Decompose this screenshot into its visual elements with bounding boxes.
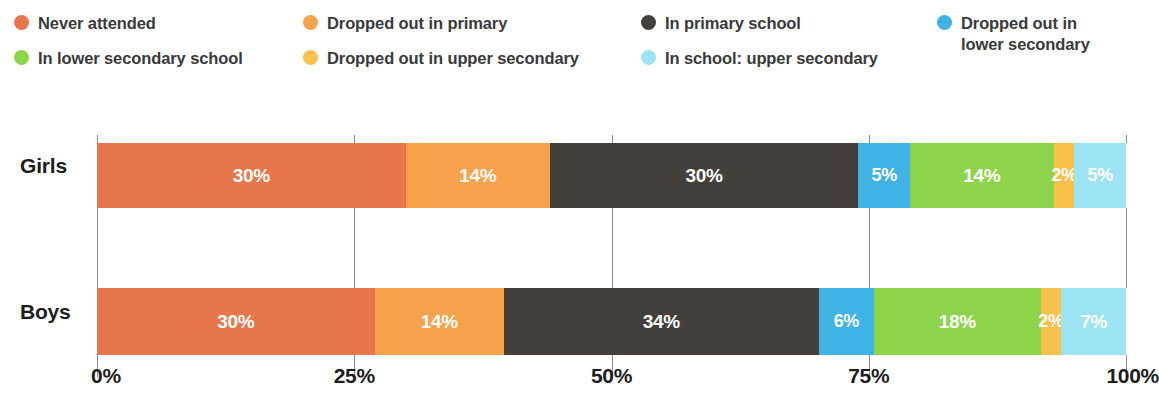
legend-item-label: In school: upper secondary	[665, 48, 878, 69]
gridline	[1126, 208, 1127, 288]
bar-segment: 2%	[1041, 288, 1062, 355]
legend-item: In primary school	[641, 13, 801, 34]
bar-segment-value-label: 6%	[834, 311, 859, 332]
x-axis-tick-label: 100%	[1106, 364, 1159, 388]
bar-segment-value-label: 14%	[963, 165, 1000, 187]
bar-segment-value-label: 14%	[459, 165, 496, 187]
legend-swatch-icon	[303, 50, 318, 65]
bar-segment-value-label: 18%	[939, 311, 976, 333]
gridline	[97, 135, 98, 143]
legend-item: Dropped out in upper secondary	[303, 48, 579, 69]
gridline	[612, 135, 613, 143]
bar-segment-value-label: 2%	[1038, 311, 1063, 332]
gridline	[97, 208, 98, 288]
bar-segment-value-label: 30%	[686, 165, 723, 187]
bar-segment-value-label: 5%	[871, 165, 896, 186]
bar-segment: 5%	[1074, 143, 1125, 208]
bar-segment: 30%	[97, 288, 375, 355]
bar-segment: 34%	[504, 288, 819, 355]
gridline	[612, 208, 613, 288]
legend-swatch-icon	[14, 50, 29, 65]
bar-segment-value-label: 30%	[217, 311, 254, 333]
gridline	[354, 208, 355, 288]
legend-swatch-icon	[937, 15, 952, 30]
category-label-girls: Girls	[20, 154, 67, 178]
gridline	[1126, 135, 1127, 143]
legend-swatch-icon	[14, 15, 29, 30]
bar-segment: 14%	[375, 288, 505, 355]
gridline	[869, 208, 870, 288]
gridline	[354, 135, 355, 143]
category-label-boys: Boys	[20, 300, 71, 324]
bar-segment: 30%	[97, 143, 406, 208]
legend-item-label: In lower secondary school	[38, 48, 243, 69]
bar-segment: 14%	[910, 143, 1054, 208]
legend-item: In lower secondary school	[14, 48, 243, 69]
bar-segment: 14%	[406, 143, 550, 208]
x-axis-tick-label: 0%	[91, 364, 121, 388]
x-axis-tick-label: 50%	[576, 364, 648, 388]
x-axis-tick-label: 75%	[833, 364, 905, 388]
bar-segment: 7%	[1061, 288, 1126, 355]
legend-item-label: Dropped out in upper secondary	[327, 48, 579, 69]
legend-item: Dropped out in lower secondary	[937, 13, 1090, 55]
x-axis-tick-label: 25%	[318, 364, 390, 388]
bar-segment-value-label: 2%	[1051, 165, 1076, 186]
bar-segment: 18%	[874, 288, 1041, 355]
bar-segment: 6%	[819, 288, 875, 355]
bar-segment-value-label: 7%	[1080, 311, 1107, 333]
legend-item: Never attended	[14, 13, 156, 34]
bar-segment-value-label: 34%	[643, 311, 680, 333]
bar-segment: 30%	[550, 143, 859, 208]
legend-swatch-icon	[641, 50, 656, 65]
stacked-bar-boys: 30%14%34%6%18%2%7%	[97, 288, 1126, 355]
chart-plot-area: Girls Boys 30%14%30%5%14%2%5% 30%14%34%6…	[0, 92, 1158, 404]
bar-segment-value-label: 5%	[1087, 165, 1112, 186]
chart-legend: Never attendedDropped out in primaryIn p…	[0, 0, 1158, 92]
legend-swatch-icon	[641, 15, 656, 30]
bar-segment-value-label: 30%	[233, 165, 270, 187]
legend-item-label: Dropped out in lower secondary	[961, 13, 1090, 55]
legend-item: Dropped out in primary	[303, 13, 507, 34]
bar-segment: 5%	[858, 143, 909, 208]
bar-segment: 2%	[1054, 143, 1075, 208]
legend-item-label: Dropped out in primary	[327, 13, 507, 34]
legend-swatch-icon	[303, 15, 318, 30]
gridline	[869, 135, 870, 143]
legend-item: In school: upper secondary	[641, 48, 878, 69]
legend-item-label: In primary school	[665, 13, 801, 34]
legend-item-label: Never attended	[38, 13, 156, 34]
stacked-bar-girls: 30%14%30%5%14%2%5%	[97, 143, 1126, 208]
bar-segment-value-label: 14%	[421, 311, 458, 333]
